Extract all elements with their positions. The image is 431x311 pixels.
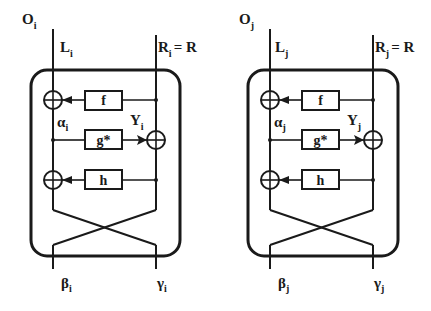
junction-dot [268,138,272,142]
node-j: f g* h Oj Lj R [239,11,414,294]
node-i: f g* h Oi Li R [22,11,197,294]
h-label: h [317,173,325,188]
arrow-left-icon [62,176,72,184]
arrow-left-icon [279,176,289,184]
y-label: Yj [347,112,361,132]
outer-label: Oi [22,11,37,31]
f-label: f [318,93,323,108]
junction-dot [154,178,158,182]
right-input-label: Rj= R [375,39,414,59]
beta-label: βi [61,275,72,294]
xor-icon [261,91,279,109]
xor-icon [147,131,165,149]
g-star-label: g* [97,133,111,148]
f-label: f [101,93,106,108]
arrow-left-icon [279,96,289,104]
g-star-label: g* [314,133,328,148]
junction-dot [154,98,158,102]
left-input-label: Lj [275,39,288,59]
h-label: h [100,173,108,188]
left-input-label: Li [60,39,73,59]
xor-icon [261,171,279,189]
beta-label: βj [278,275,289,294]
outer-label: Oj [239,11,254,31]
gamma-label: γj [373,275,384,294]
y-label: Yi [130,112,144,132]
right-input-label: Ri= R [158,39,197,59]
alpha-label: αi [57,114,68,133]
xor-icon [364,131,382,149]
gamma-label: γi [156,275,167,294]
xor-icon [44,91,62,109]
junction-dot [371,98,375,102]
junction-dot [371,178,375,182]
xor-icon [44,171,62,189]
junction-dot [51,138,55,142]
arrow-left-icon [62,96,72,104]
alpha-label: αj [274,114,286,133]
diagram-canvas: f g* h Oi Li R [0,0,431,311]
